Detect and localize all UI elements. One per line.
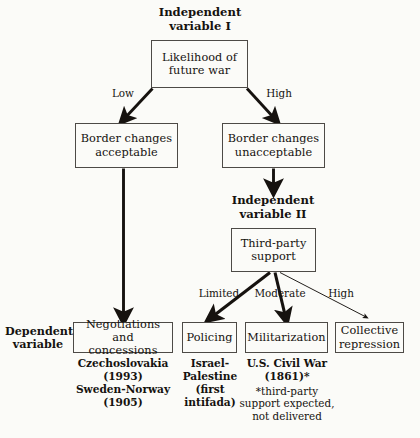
node-border-changes-acceptable[interactable]: Border changesacceptable: [75, 123, 178, 168]
node-border-unacceptable-label: Border changesunacceptable: [225, 132, 322, 158]
caption-militarization-cases: U.S. Civil War(1861)*: [238, 357, 336, 383]
caption-militarization-footnote: *third-partysupport expected,not deliver…: [232, 385, 342, 422]
edge-label-limited: Limited: [194, 288, 244, 299]
node-negotiations-label: Negotiations andconcessions: [74, 318, 172, 357]
node-negotiations-and-concessions[interactable]: Negotiations andconcessions: [73, 322, 173, 353]
edge-label-moderate: Moderate: [253, 288, 307, 299]
node-border-changes-unacceptable[interactable]: Border changesunacceptable: [222, 123, 325, 168]
edge-label-high: High: [258, 88, 300, 99]
node-third-party-support[interactable]: Third-partysupport: [231, 228, 316, 272]
edge-label-high-third-party: High: [325, 288, 357, 299]
caption-negotiations-cases: Czechoslovakia(1993)Sweden-Norway(1905): [58, 357, 188, 409]
flowchart-diagram: Independentvariable I Independentvariabl…: [0, 0, 420, 438]
node-border-acceptable-label: Border changesacceptable: [78, 132, 175, 158]
caption-policing-cases: Israel-Palestine(firstintifada): [181, 357, 239, 409]
node-collective-repression[interactable]: Collectiverepression: [335, 322, 404, 353]
edge-label-low: Low: [102, 88, 144, 99]
node-militarization-label: Militarization: [244, 331, 328, 344]
node-collective-repression-label: Collectiverepression: [336, 324, 403, 350]
node-policing[interactable]: Policing: [182, 322, 237, 353]
node-policing-label: Policing: [183, 331, 235, 344]
heading-independent-variable-1: Independentvariable I: [135, 6, 265, 33]
node-militarization[interactable]: Militarization: [245, 322, 328, 353]
node-likelihood-of-future-war[interactable]: Likelihood offuture war: [151, 40, 248, 88]
heading-independent-variable-2: Independentvariable II: [208, 194, 338, 221]
label-dependent-variable: Dependentvariable: [5, 325, 71, 352]
node-third-party-label: Third-partysupport: [238, 237, 310, 263]
node-likelihood-label: Likelihood offuture war: [159, 51, 240, 77]
